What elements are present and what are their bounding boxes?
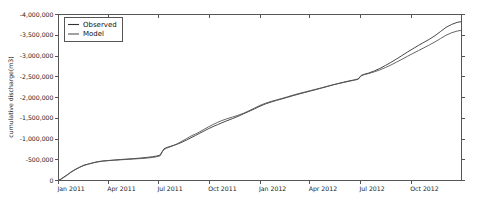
- y-tick-label: -3,500,000: [20, 31, 54, 38]
- x-tick-label: Apr 2012: [309, 185, 337, 193]
- x-tick-label: Jan 2011: [57, 185, 85, 193]
- y-tick-label: -2,500,000: [20, 73, 54, 80]
- x-tick-label: Jan 2012: [258, 185, 286, 193]
- x-tick-label: Oct 2012: [410, 185, 438, 192]
- chart-legend[interactable]: ObservedModel: [65, 18, 123, 42]
- series-line-observed: [59, 22, 462, 181]
- cumulative-discharge-line-chart: 0-500,000-1,000,000-1,500,000-2,000,000-…: [0, 0, 477, 206]
- y-tick-label: 0: [50, 177, 54, 184]
- y-tick-label: -4,000,000: [20, 11, 54, 18]
- y-tick-label: -3,000,000: [20, 52, 54, 59]
- legend-label-observed: Observed: [83, 21, 117, 29]
- legend-label-model: Model: [83, 30, 104, 38]
- chart-figure: 0-500,000-1,000,000-1,500,000-2,000,000-…: [0, 0, 477, 206]
- series-line-model: [59, 30, 462, 180]
- x-tick-label: Oct 2011: [208, 185, 236, 192]
- y-axis-title: cumulative discharge(m3): [7, 56, 15, 137]
- y-tick-label: -1,000,000: [20, 135, 54, 142]
- x-tick-label: Jul 2012: [358, 185, 384, 193]
- y-tick-label: -500,000: [26, 156, 54, 163]
- y-tick-label: -1,500,000: [20, 114, 54, 121]
- x-tick-label: Apr 2011: [107, 185, 135, 193]
- data-series-group: [59, 22, 462, 181]
- x-tick-label: Jul 2011: [156, 185, 182, 193]
- y-tick-label: -2,000,000: [20, 94, 54, 101]
